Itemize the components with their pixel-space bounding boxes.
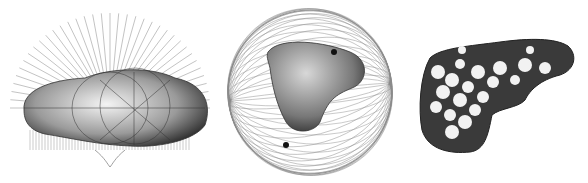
panel-sphere-cage (220, 0, 400, 183)
panel-perforated-solid (400, 0, 588, 183)
blob-normals-illustration (0, 0, 220, 183)
perforated-solid-illustration (400, 0, 588, 183)
sphere-cage-illustration (220, 0, 400, 183)
heart-shape (267, 42, 364, 131)
panel-blob-with-normals (0, 0, 220, 183)
pole-singularity-bottom (283, 142, 289, 148)
pole-singularity-top (331, 49, 337, 55)
